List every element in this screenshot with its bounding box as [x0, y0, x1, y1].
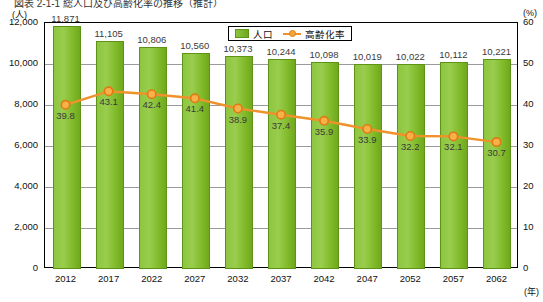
aging-rate-point-2047: [363, 125, 371, 133]
y2-tick-60: 60: [523, 16, 543, 27]
aging-rate-point-2027: [191, 94, 199, 102]
legend-label-population: 人口: [253, 27, 273, 41]
point-label-2012: 39.8: [49, 110, 83, 121]
point-label-2022: 42.4: [135, 99, 169, 110]
point-label-2062: 30.7: [479, 147, 513, 158]
bar-label-2037: 10,244: [258, 46, 304, 57]
bar-label-2047: 10,019: [344, 51, 390, 62]
point-label-2057: 32.1: [436, 141, 470, 152]
aging-rate-point-2057: [449, 132, 457, 140]
x-tick-2052: 2052: [390, 273, 430, 284]
x-tick-2042: 2042: [304, 273, 344, 284]
point-label-2027: 41.4: [178, 103, 212, 114]
chart-title-strip: 図表 2-1-1 総人口及び高齢化率の推移（推計）: [0, 0, 543, 10]
legend-label-aging-rate: 高齢化率: [305, 27, 345, 41]
y-tick-8,000: 8,000: [0, 98, 38, 109]
aging-rate-point-2062: [492, 138, 500, 146]
x-tick-2037: 2037: [261, 273, 301, 284]
point-label-2042: 35.9: [307, 126, 341, 137]
y2-tick-20: 20: [523, 180, 543, 191]
aging-rate-point-2032: [234, 104, 242, 112]
y-tick-10,000: 10,000: [0, 57, 38, 68]
bar-label-2017: 11,105: [86, 28, 132, 39]
bar-label-2062: 10,221: [473, 46, 519, 57]
bar-label-2022: 10,806: [129, 34, 175, 45]
y-tick-12,000: 12,000: [0, 16, 38, 27]
y-tick-4,000: 4,000: [0, 180, 38, 191]
bar-label-2027: 10,560: [172, 40, 218, 51]
chart-root: 図表 2-1-1 総人口及び高齢化率の推移（推計） (人) (%) (年) 11…: [0, 0, 543, 302]
y2-tick-0: 0: [523, 262, 543, 273]
bar-label-2057: 10,112: [430, 49, 476, 60]
aging-rate-point-2052: [406, 132, 414, 140]
legend-item-population: 人口: [235, 27, 273, 41]
y-tick-2,000: 2,000: [0, 221, 38, 232]
x-axis-unit: (年): [524, 285, 539, 298]
aging-rate-point-2022: [148, 90, 156, 98]
bar-label-2052: 10,022: [387, 51, 433, 62]
point-label-2047: 33.9: [350, 134, 384, 145]
x-tick-2027: 2027: [175, 273, 215, 284]
point-label-2037: 37.4: [264, 120, 298, 131]
x-tick-2022: 2022: [132, 273, 172, 284]
population-swatch-icon: [235, 29, 249, 38]
y-tick-6,000: 6,000: [0, 139, 38, 150]
point-label-2032: 38.9: [221, 114, 255, 125]
chart-title: 図表 2-1-1 総人口及び高齢化率の推移（推計）: [14, 0, 223, 10]
chart-legend: 人口 高齢化率: [228, 26, 352, 41]
aging-rate-point-2037: [277, 111, 285, 119]
legend-item-aging-rate: 高齢化率: [283, 27, 345, 41]
bar-label-2042: 10,098: [301, 49, 347, 60]
y2-tick-50: 50: [523, 57, 543, 68]
bar-label-2012: 11,871: [43, 13, 89, 24]
y2-tick-10: 10: [523, 221, 543, 232]
aging-rate-point-2042: [320, 117, 328, 125]
x-tick-2012: 2012: [46, 273, 86, 284]
y2-tick-30: 30: [523, 139, 543, 150]
y-tick-0: 0: [0, 262, 38, 273]
aging-rate-point-2017: [104, 87, 112, 95]
x-tick-2047: 2047: [347, 273, 387, 284]
x-tick-2062: 2062: [476, 273, 516, 284]
x-tick-2057: 2057: [433, 273, 473, 284]
point-label-2052: 32.2: [393, 141, 427, 152]
y2-tick-40: 40: [523, 98, 543, 109]
x-tick-2017: 2017: [89, 273, 129, 284]
bar-label-2032: 10,373: [215, 43, 261, 54]
aging-rate-point-2012: [61, 101, 69, 109]
point-label-2017: 43.1: [92, 96, 126, 107]
x-tick-2032: 2032: [218, 273, 258, 284]
aging-rate-swatch-icon: [283, 29, 301, 38]
